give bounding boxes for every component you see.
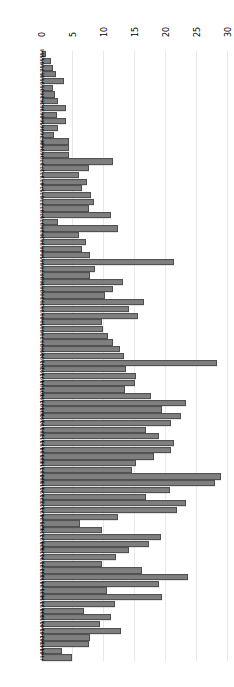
bar-I111 <box>42 433 159 439</box>
bar-I132 <box>42 574 188 580</box>
bar-row <box>42 634 234 641</box>
bar-row <box>42 607 234 614</box>
bar-I91 <box>42 299 144 305</box>
bar-row <box>42 574 234 581</box>
bar-I93 <box>42 313 138 319</box>
bar-I129 <box>42 554 116 560</box>
bar-row <box>42 493 234 500</box>
bar-row <box>42 601 234 608</box>
bar-row <box>42 346 234 353</box>
bar-row <box>42 500 234 507</box>
bar-row <box>42 232 234 239</box>
bar-row <box>42 641 234 648</box>
bar-I142 <box>42 641 89 647</box>
bar-I117 <box>42 474 221 480</box>
plot-area <box>42 51 234 661</box>
bar-I67 <box>42 138 69 144</box>
bar-I82 <box>42 239 86 245</box>
bar-row <box>42 507 234 514</box>
bar-I115 <box>42 460 136 466</box>
bar-row <box>42 259 234 266</box>
bar-I102 <box>42 373 136 379</box>
bar-row <box>42 152 234 159</box>
bar-I90 <box>42 293 105 299</box>
bar-I125 <box>42 527 102 533</box>
bar-I96 <box>42 333 108 339</box>
bar-row <box>42 245 234 252</box>
category-label-I93: I93 <box>40 310 45 318</box>
bar-row <box>42 648 234 655</box>
category-label-I76: I76 <box>40 196 45 204</box>
bar-row <box>42 292 234 299</box>
bar-I75 <box>42 192 91 198</box>
bar-row <box>42 581 234 588</box>
bar-row <box>42 178 234 185</box>
bar-row <box>42 587 234 594</box>
bar-row <box>42 453 234 460</box>
bar-I71 <box>42 165 89 171</box>
bar-row <box>42 286 234 293</box>
bar-row <box>42 540 234 547</box>
category-label-I73: I73 <box>40 176 45 184</box>
category-label-I63: I63 <box>40 109 45 117</box>
bar-I99 <box>42 353 124 359</box>
bar-row <box>42 312 234 319</box>
bar-row <box>42 567 234 574</box>
bar-I128 <box>42 547 129 553</box>
bar-row <box>42 225 234 232</box>
bar-I86 <box>42 266 95 272</box>
bar-row <box>42 440 234 447</box>
bar-row <box>42 172 234 179</box>
bar-I85 <box>42 259 174 265</box>
bar-row <box>42 239 234 246</box>
bar-row <box>42 353 234 360</box>
category-label-I69: I69 <box>40 149 45 157</box>
bar-I69 <box>42 152 69 158</box>
bar-row <box>42 560 234 567</box>
bar-I94 <box>42 319 102 325</box>
bar-row <box>42 654 234 661</box>
bar-I87 <box>42 272 90 278</box>
bar-I76 <box>42 199 94 205</box>
bar-I64 <box>42 118 66 124</box>
bar-I70 <box>42 159 113 165</box>
bar-row <box>42 299 234 306</box>
bar-I119 <box>42 487 170 493</box>
bar-row <box>42 520 234 527</box>
bar-I121 <box>42 500 186 506</box>
bar-row <box>42 118 234 125</box>
bar-I97 <box>42 340 113 346</box>
bar-row <box>42 326 234 333</box>
bar-I113 <box>42 447 171 453</box>
bar-row <box>42 219 234 226</box>
bar-I116 <box>42 467 132 473</box>
bar-I130 <box>42 561 102 567</box>
category-label-I86: I86 <box>40 263 45 271</box>
bar-row <box>42 400 234 407</box>
bar-row <box>42 165 234 172</box>
bar-row <box>42 71 234 78</box>
bar-I104 <box>42 386 125 392</box>
bar-row <box>42 547 234 554</box>
value-tick-25: 25 <box>194 27 202 37</box>
value-tick-15: 15 <box>132 27 140 37</box>
bar-row <box>42 534 234 541</box>
bar-row <box>42 594 234 601</box>
bar-I144 <box>42 655 72 661</box>
bar-I103 <box>42 380 135 386</box>
bar-I83 <box>42 246 82 252</box>
bar-I105 <box>42 393 151 399</box>
bar-row <box>42 205 234 212</box>
bar-row <box>42 527 234 534</box>
bar-row <box>42 111 234 118</box>
bar-I133 <box>42 581 159 587</box>
bar-row <box>42 460 234 467</box>
bar-I88 <box>42 279 123 285</box>
value-tick-0: 0 <box>39 32 47 37</box>
value-tick-30: 30 <box>225 27 233 37</box>
bar-row <box>42 212 234 219</box>
bar-I78 <box>42 212 111 218</box>
bar-I92 <box>42 306 129 312</box>
bar-row <box>42 473 234 480</box>
value-axis: 051015202530 <box>42 0 234 51</box>
